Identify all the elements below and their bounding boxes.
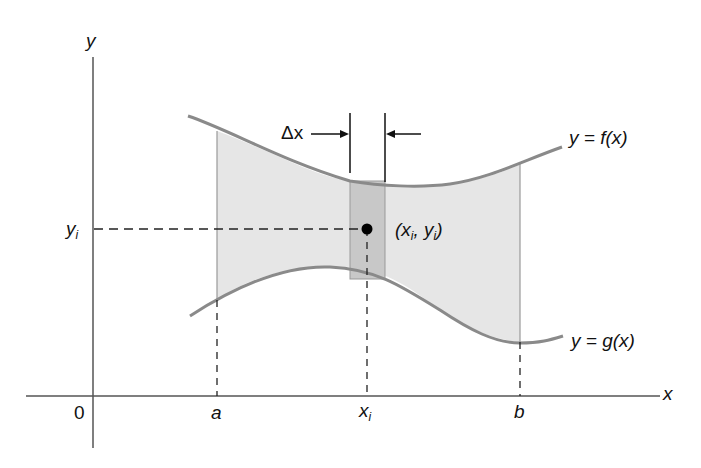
x-axis-label: x <box>663 384 673 403</box>
arrowhead-right-icon <box>340 130 349 138</box>
diagram-canvas <box>0 0 701 468</box>
y-axis-label: y <box>86 31 96 50</box>
point-label: (xi, yi) <box>395 220 443 242</box>
tick-label-xi: xi <box>359 401 371 423</box>
yi-base: y <box>66 218 76 239</box>
tick-label-a: a <box>211 403 222 422</box>
delta-x-label: Δx <box>281 123 303 142</box>
curve-g-label: y = g(x) <box>571 331 635 350</box>
xi-base: x <box>359 400 369 421</box>
tick-label-b: b <box>514 402 525 421</box>
point-label-mid: , y <box>414 219 434 240</box>
point-label-open: (x <box>395 219 411 240</box>
arrowhead-left-icon <box>386 130 395 138</box>
yi-subscript: i <box>76 228 79 242</box>
sample-point <box>362 224 373 235</box>
point-label-close: ) <box>436 219 442 240</box>
origin-label: 0 <box>74 403 85 422</box>
tick-label-yi: yi <box>66 219 78 241</box>
curve-f-label: y = f(x) <box>569 128 628 147</box>
xi-subscript: i <box>369 410 372 424</box>
